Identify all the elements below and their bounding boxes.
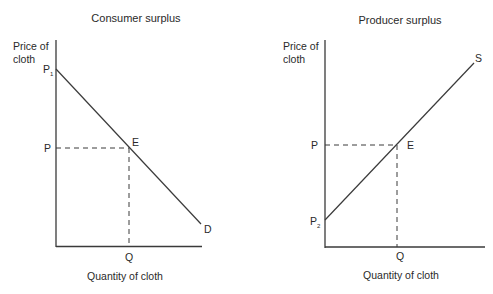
right-y-label-2: cloth bbox=[283, 53, 305, 65]
p1-label: P1 bbox=[43, 63, 54, 77]
right-q-label: Q bbox=[396, 250, 404, 262]
left-p-label: P bbox=[44, 142, 51, 154]
right-p-label: P bbox=[311, 139, 318, 151]
surplus-diagrams: Consumer surplus Price of cloth P1 P E D… bbox=[0, 0, 493, 294]
left-title: Consumer surplus bbox=[91, 12, 181, 24]
right-y-label-1: Price of bbox=[283, 40, 319, 52]
consumer-surplus-diagram: Consumer surplus Price of cloth P1 P E D… bbox=[13, 12, 212, 282]
supply-label: S bbox=[475, 52, 482, 64]
left-x-label: Quantity of cloth bbox=[87, 270, 163, 282]
producer-surplus-diagram: Producer surplus Price of cloth P P2 E S… bbox=[283, 14, 485, 281]
demand-curve bbox=[56, 69, 201, 224]
right-e-label: E bbox=[407, 139, 414, 151]
left-y-label-2: cloth bbox=[13, 53, 35, 65]
left-e-label: E bbox=[132, 136, 139, 148]
demand-label: D bbox=[204, 223, 212, 235]
supply-curve bbox=[325, 63, 474, 220]
right-x-label: Quantity of cloth bbox=[363, 269, 439, 281]
left-y-label-1: Price of bbox=[13, 40, 49, 52]
left-q-label: Q bbox=[125, 251, 133, 263]
right-title: Producer surplus bbox=[358, 14, 442, 26]
p2-label: P2 bbox=[310, 215, 321, 229]
